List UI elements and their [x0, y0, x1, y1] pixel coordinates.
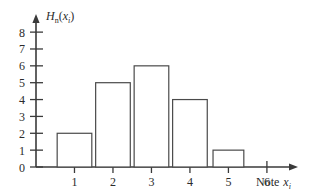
y-axis-tick-labels: 0 1 2 3 4 5 6 7 8: [19, 26, 25, 175]
y-axis-title: Hn(xi): [45, 9, 74, 25]
y-tick-label-1: 1: [19, 144, 25, 158]
x-tick-label-4: 4: [187, 175, 193, 189]
bars-group: [57, 66, 244, 167]
y-axis-group: [32, 14, 39, 167]
y-tick-label-5: 5: [19, 76, 25, 90]
x-axis-title-word: Note: [256, 175, 279, 189]
x-tick-label-1: 1: [71, 175, 77, 189]
x-tick-label-3: 3: [148, 175, 154, 189]
y-axis-arrow-icon: [32, 14, 39, 23]
y-tick-label-0: 0: [19, 161, 25, 175]
y-tick-label-3: 3: [19, 110, 25, 124]
svg-text:Hn(xi): Hn(xi): [45, 9, 74, 25]
y-tick-label-8: 8: [19, 26, 25, 40]
x-axis-arrow-icon: [289, 163, 298, 170]
bar-4: [173, 100, 208, 167]
bar-5: [213, 150, 244, 167]
y-tick-label-7: 7: [19, 42, 25, 56]
x-axis-tick-labels: 1 2 3 4 5 6: [71, 175, 269, 189]
y-tick-label-4: 4: [19, 93, 25, 107]
x-tick-label-5: 5: [225, 175, 231, 189]
y-tick-label-2: 2: [19, 127, 25, 141]
chart-canvas: 0 1 2 3 4 5 6 7 8 1 2 3 4 5 6: [0, 0, 311, 193]
x-axis-title-varsub: i: [289, 182, 291, 191]
bar-3: [134, 66, 169, 167]
bar-2: [96, 83, 131, 167]
y-axis-title-close: ): [70, 9, 74, 23]
histogram-figure: 0 1 2 3 4 5 6 7 8 1 2 3 4 5 6: [0, 0, 311, 193]
bar-1: [57, 133, 92, 167]
svg-text:Notexi: Notexi: [256, 175, 291, 191]
x-axis-title: Notexi: [256, 175, 291, 191]
y-tick-label-6: 6: [19, 59, 25, 73]
x-tick-label-2: 2: [110, 175, 116, 189]
